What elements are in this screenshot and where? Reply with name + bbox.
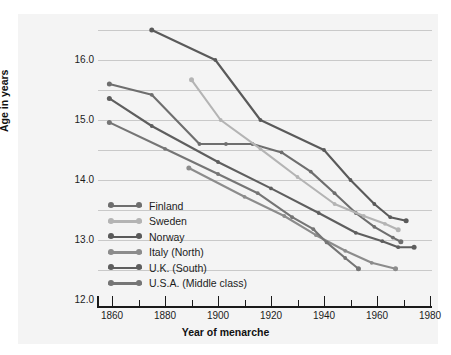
legend-label: U.K. (South) xyxy=(149,262,207,274)
data-point xyxy=(213,58,217,62)
data-point xyxy=(216,172,220,176)
data-point xyxy=(312,227,316,231)
legend-item[interactable]: Norway xyxy=(108,229,247,245)
legend-label: Finland xyxy=(149,200,183,212)
legend-label: U.S.A. (Middle class) xyxy=(149,277,247,289)
data-point xyxy=(412,245,417,250)
legend-swatch-icon xyxy=(108,247,142,258)
data-point xyxy=(383,222,387,226)
data-point xyxy=(309,170,313,174)
data-point xyxy=(322,148,326,152)
data-point xyxy=(149,28,154,33)
data-point xyxy=(163,147,167,151)
data-point xyxy=(186,166,191,171)
data-point xyxy=(189,77,194,82)
series-norway xyxy=(149,28,408,224)
data-point xyxy=(150,93,154,97)
data-point xyxy=(256,191,260,195)
data-point xyxy=(370,261,374,265)
data-point xyxy=(404,218,409,223)
data-point xyxy=(388,215,392,219)
legend-swatch-icon xyxy=(108,231,142,242)
data-point xyxy=(391,236,395,240)
data-point xyxy=(107,120,112,125)
data-point xyxy=(354,231,358,235)
data-point xyxy=(269,187,273,191)
data-point xyxy=(150,124,154,128)
legend-label: Italy (North) xyxy=(149,246,204,258)
data-point xyxy=(393,266,398,271)
data-point xyxy=(290,215,294,219)
data-point xyxy=(333,191,337,195)
data-point xyxy=(343,256,347,260)
legend-label: Sweden xyxy=(149,215,187,227)
data-point xyxy=(380,239,384,243)
legend-swatch-icon xyxy=(108,262,142,273)
chart-figure: 12.013.014.015.016.0 Age in years 186018… xyxy=(0,0,451,355)
data-point xyxy=(198,142,202,146)
data-point xyxy=(325,241,329,245)
data-point xyxy=(356,266,361,271)
data-point xyxy=(282,214,286,218)
legend-swatch-icon xyxy=(108,216,142,227)
data-point xyxy=(396,245,400,249)
data-point xyxy=(372,202,376,206)
legend-item[interactable]: U.K. (South) xyxy=(108,260,247,276)
data-point xyxy=(343,249,347,253)
data-point xyxy=(216,160,220,164)
legend-item[interactable]: Sweden xyxy=(108,214,247,230)
data-point xyxy=(372,225,376,229)
legend-swatch-icon xyxy=(108,278,142,289)
data-point xyxy=(396,227,401,232)
legend-item[interactable]: Finland xyxy=(108,198,247,214)
data-point xyxy=(398,239,403,244)
data-point xyxy=(349,178,353,182)
data-point xyxy=(296,175,300,179)
data-point xyxy=(107,96,112,101)
data-point xyxy=(224,142,228,146)
data-point xyxy=(317,211,321,215)
data-point xyxy=(219,118,223,122)
data-point xyxy=(107,82,112,87)
data-point xyxy=(280,151,284,155)
legend-swatch-icon xyxy=(108,200,142,211)
legend-item[interactable]: U.S.A. (Middle class) xyxy=(108,276,247,292)
data-point xyxy=(333,202,337,206)
legend-label: Norway xyxy=(149,231,185,243)
data-point xyxy=(259,118,263,122)
legend: FinlandSwedenNorwayItaly (North)U.K. (So… xyxy=(108,198,247,291)
legend-item[interactable]: Italy (North) xyxy=(108,245,247,261)
data-point xyxy=(362,214,366,218)
data-series-layer xyxy=(0,0,451,355)
data-point xyxy=(259,147,263,151)
